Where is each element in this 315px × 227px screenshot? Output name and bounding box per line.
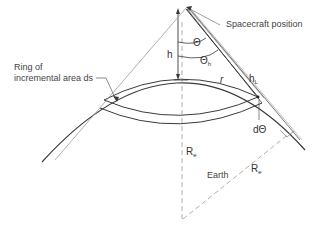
r-symbol: r	[220, 75, 223, 85]
ring-lower-arc-2	[100, 103, 262, 124]
ring-label-line1: Ring of	[14, 62, 43, 72]
earth-surface-arc	[42, 83, 305, 162]
re-diagonal-dashed	[183, 133, 290, 219]
theta-h-symbol: Θh	[200, 56, 211, 67]
re-vertical-symbol: Re	[186, 147, 197, 158]
h-l-symbol: hL	[249, 74, 258, 85]
spacecraft-pointer	[190, 9, 220, 25]
h-arrow-head-top	[176, 8, 180, 14]
ring-leader	[96, 78, 116, 100]
ring-lower-arc-1	[104, 97, 258, 115]
theta-h-arc	[178, 50, 218, 58]
re-diagonal-symbol: Re	[251, 164, 262, 175]
h-symbol: h	[167, 50, 173, 60]
ring-label-line2: incremental area ds	[14, 73, 93, 83]
d-theta-symbol: dΘ	[253, 125, 266, 135]
geometry-diagram	[0, 0, 315, 227]
spacecraft-position-label: Spacecraft position	[226, 19, 303, 29]
earth-label: Earth	[207, 170, 229, 180]
theta-symbol: Θ	[193, 38, 201, 48]
